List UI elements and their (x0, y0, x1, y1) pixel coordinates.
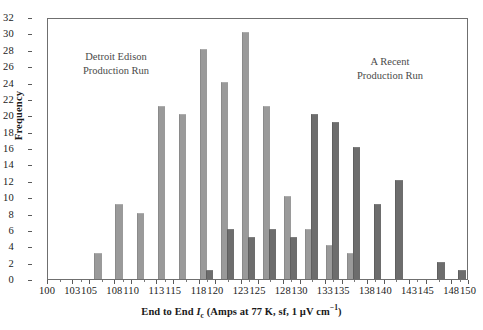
bar-detroit-edison (137, 213, 144, 280)
y-tick-label: 26 (3, 62, 14, 73)
y-tick-mark (28, 198, 32, 199)
x-tick-minor (144, 280, 145, 282)
y-axis: Frequency 02468101214161820222426283032 (0, 0, 47, 300)
x-tick-minor (207, 280, 208, 282)
y-tick-label: 22 (3, 95, 14, 106)
x-tick-minor (60, 280, 61, 282)
y-tick-label: 6 (9, 226, 14, 237)
x-tick-label: 108 (106, 285, 122, 296)
x-tick-mark (241, 280, 242, 284)
y-tick-mark (28, 247, 32, 248)
x-tick-label: 115 (165, 285, 181, 296)
x-tick-mark (258, 280, 259, 284)
x-tick-label: 100 (39, 285, 55, 296)
x-tick-label: 148 (443, 285, 459, 296)
annotation-detroit-edison: Detroit Edison Production Run (56, 50, 176, 78)
bar-detroit-edison (158, 106, 165, 279)
x-tick-mark (199, 280, 200, 284)
x-tick-minor (81, 280, 82, 282)
y-tick-label: 28 (3, 46, 14, 57)
x-title-lead: End to End (141, 306, 196, 317)
x-tick-label: 105 (81, 285, 97, 296)
y-tick-label: 8 (9, 209, 14, 220)
x-title-close: ) (338, 306, 342, 317)
y-axis-title: Frequency (13, 71, 24, 161)
x-tick-mark (409, 280, 410, 284)
annotation-right-line1: A Recent (330, 55, 450, 69)
y-tick-label: 2 (9, 258, 14, 269)
x-tick-mark (325, 280, 326, 284)
y-tick-label: 24 (3, 78, 14, 89)
bar-detroit-edison (94, 253, 101, 279)
x-tick-minor (396, 280, 397, 282)
bar-recent-run (437, 262, 444, 279)
bar-recent-run (374, 204, 381, 279)
x-tick-mark (342, 280, 343, 284)
bar-recent-run (395, 180, 402, 279)
y-tick-label: 4 (9, 242, 14, 253)
x-tick-mark (215, 280, 216, 284)
bar-recent-run (332, 122, 339, 279)
x-tick-mark (173, 280, 174, 284)
x-tick-minor (291, 280, 292, 282)
x-tick-label: 103 (64, 285, 80, 296)
y-tick-mark (28, 34, 32, 35)
x-tick-mark (367, 280, 368, 284)
y-tick-mark (28, 18, 32, 19)
x-tick-mark (468, 280, 469, 284)
x-tick-label: 140 (376, 285, 392, 296)
y-tick-mark (28, 280, 32, 281)
x-tick-label: 110 (123, 285, 139, 296)
bar-recent-run (227, 229, 234, 279)
y-tick-mark (28, 264, 32, 265)
y-tick-mark (28, 149, 32, 150)
x-tick-label: 125 (249, 285, 265, 296)
x-axis-title: End to End Ic (Amps at 77 K, sf, 1 µV cm… (0, 303, 483, 320)
y-tick-mark (28, 165, 32, 166)
y-tick-label: 30 (3, 29, 14, 40)
x-tick-mark (156, 280, 157, 284)
y-tick-mark (28, 215, 32, 216)
x-tick-label: 135 (334, 285, 350, 296)
y-tick-label: 18 (3, 127, 14, 138)
y-tick-label: 20 (3, 111, 14, 122)
bar-recent-run (248, 237, 255, 279)
y-tick-mark (28, 133, 32, 134)
x-tick-label: 133 (317, 285, 333, 296)
y-tick-label: 14 (3, 160, 14, 171)
bar-recent-run (206, 270, 213, 279)
x-tick-mark (283, 280, 284, 284)
x-tick-mark (47, 280, 48, 284)
y-tick-label: 10 (3, 193, 14, 204)
y-tick-mark (28, 182, 32, 183)
x-tick-label: 150 (460, 285, 476, 296)
chart-root: Frequency 02468101214161820222426283032 … (0, 0, 483, 330)
x-tick-label: 120 (207, 285, 223, 296)
x-tick-minor (439, 280, 440, 282)
x-tick-minor (375, 280, 376, 282)
x-tick-label: 145 (418, 285, 434, 296)
x-tick-mark (300, 280, 301, 284)
x-tick-minor (123, 280, 124, 282)
annotation-left-line2: Production Run (56, 64, 176, 78)
x-tick-mark (72, 280, 73, 284)
bar-recent-run (353, 147, 360, 279)
y-tick-mark (28, 100, 32, 101)
x-tick-label: 118 (191, 285, 207, 296)
annotation-right-line2: Production Run (330, 69, 450, 83)
annotation-recent-run: A Recent Production Run (330, 55, 450, 83)
x-tick-mark (426, 280, 427, 284)
x-tick-minor (228, 280, 229, 282)
x-tick-label: 113 (149, 285, 165, 296)
y-tick-mark (28, 84, 32, 85)
x-tick-mark (131, 280, 132, 284)
y-tick-label: 32 (3, 13, 14, 24)
x-tick-label: 130 (292, 285, 308, 296)
x-tick-minor (417, 280, 418, 282)
x-tick-minor (312, 280, 313, 282)
y-tick-label: 12 (3, 177, 14, 188)
x-tick-label: 123 (233, 285, 249, 296)
x-tick-minor (333, 280, 334, 282)
bar-detroit-edison (179, 114, 186, 279)
x-tick-minor (249, 280, 250, 282)
